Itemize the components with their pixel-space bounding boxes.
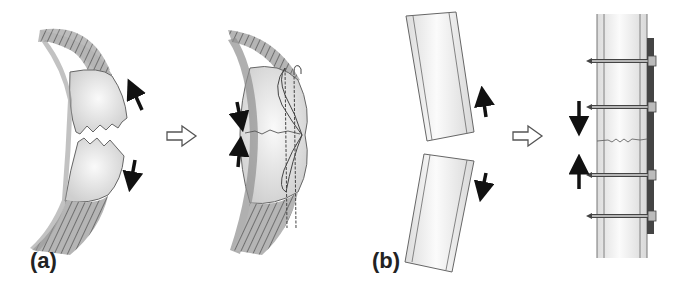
panel-a-before [30,29,142,255]
bone-shaft-upper-fragment [406,12,474,141]
patella-upper-fragment [70,70,127,134]
transition-arrow-icon [513,126,542,146]
force-arrow-up [132,88,142,110]
force-arrow-up [238,146,240,167]
panel-label-a: (a) [30,248,57,273]
patella-lower-fragment [65,138,124,202]
force-arrow-down [237,102,241,122]
force-arrow-down [131,160,135,182]
panel-a-after [228,30,307,255]
bone-shaft-lower-fragment [405,154,474,272]
bone-shaft-fixed [597,14,647,258]
force-arrow-up [483,96,486,117]
transition-arrow-icon [167,126,196,146]
panel-b-before [405,12,486,272]
bone-plate [647,38,654,234]
panel-b-after [579,14,656,258]
patellar-tendon [32,196,108,255]
force-arrow-down [482,173,486,192]
panel-label-b: (b) [372,248,400,273]
figure-canvas: (a) [0,0,681,293]
